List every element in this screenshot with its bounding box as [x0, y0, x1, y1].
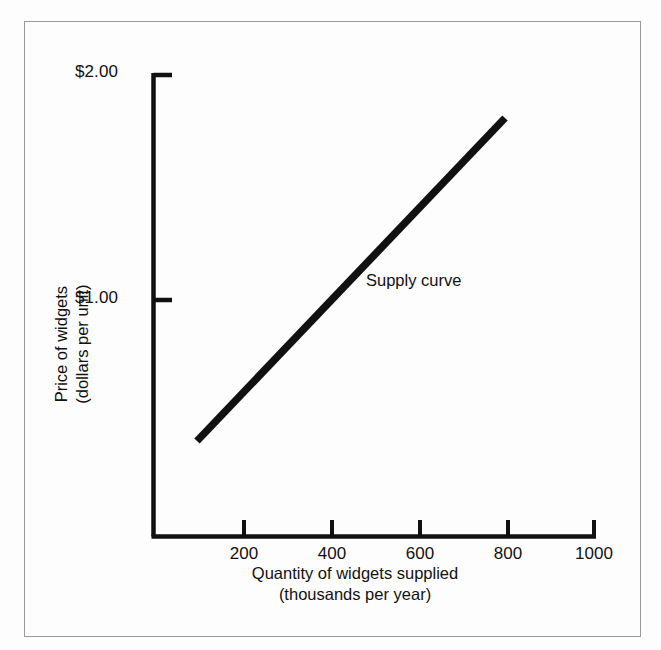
- xtick-label-600: 600: [390, 544, 450, 564]
- y-axis-title-line-2: (dollars per unit): [73, 242, 94, 447]
- y-axis-title-line-1: Price of widgets: [51, 242, 72, 447]
- x-axis-title-line-2: (thousands per year): [155, 584, 555, 605]
- supply-curve-annotation: Supply curve: [366, 271, 461, 290]
- x-axis-title: Quantity of widgets supplied (thousands …: [155, 563, 555, 605]
- xtick-label-1000: 1000: [564, 544, 624, 564]
- ytick-label-2: $2.00: [28, 62, 118, 82]
- xtick-label-200: 200: [214, 544, 274, 564]
- y-axis-title: Price of widgets (dollars per unit): [51, 242, 93, 447]
- xtick-label-800: 800: [478, 544, 538, 564]
- xtick-label-400: 400: [302, 544, 362, 564]
- figure-plate: $2.00 $1.00 200 400 600 800 1000 Quantit…: [0, 0, 661, 650]
- x-axis-title-line-1: Quantity of widgets supplied: [155, 563, 555, 584]
